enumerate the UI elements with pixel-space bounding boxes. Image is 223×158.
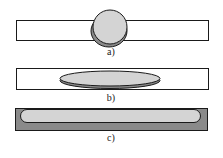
caption-a: a) xyxy=(101,46,121,57)
lens-b xyxy=(60,71,160,86)
panel-c xyxy=(16,109,208,131)
panel-b xyxy=(17,69,209,90)
sphere-a xyxy=(93,10,127,44)
caption-c: c) xyxy=(101,132,121,143)
film-c xyxy=(21,110,201,123)
panel-a xyxy=(17,10,209,47)
caption-b: b) xyxy=(101,92,121,103)
